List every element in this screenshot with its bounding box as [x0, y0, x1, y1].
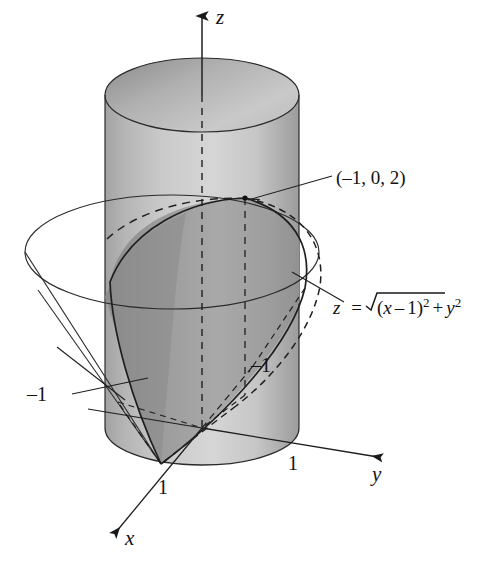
equation-one: 1 [407, 297, 417, 318]
equation-exponent-1: 2 [423, 295, 430, 310]
equation-annotation: z = (x–1)2+y2 [332, 293, 461, 319]
tick-x-one: 1 [158, 476, 168, 498]
marked-point-dot [242, 195, 247, 200]
figure-canvas: z y x 1 1 –1 –1 (–1, 0, 2) z = (x–1)2+y2 [0, 0, 503, 562]
math-figure-svg: z y x 1 1 –1 –1 (–1, 0, 2) z = (x–1)2+y2 [0, 0, 503, 562]
equation-x: x [382, 297, 392, 318]
equation-z: z [332, 297, 341, 318]
tick-y-one: 1 [288, 452, 298, 474]
equation-exponent-2: 2 [455, 295, 462, 310]
svg-text:z =: z = [332, 297, 362, 318]
equation-minus: – [394, 297, 405, 318]
x-axis-label: x [124, 526, 135, 550]
z-axis-label: z [215, 5, 224, 29]
tick-neg-one-left: –1 [26, 383, 47, 405]
tick-neg-one-right: –1 [250, 354, 271, 376]
point-annotation-label: (–1, 0, 2) [336, 167, 406, 189]
equation-plus: + [433, 297, 444, 318]
equation-equals: = [351, 297, 362, 318]
svg-text:(x–1)2+y2: (x–1)2+y2 [377, 295, 461, 319]
equation-y: y [444, 297, 455, 318]
y-axis-label: y [370, 462, 382, 486]
